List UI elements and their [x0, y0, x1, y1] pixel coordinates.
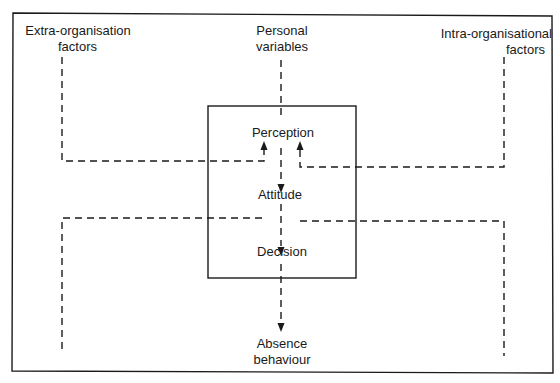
lower-left-line [62, 218, 262, 353]
decision-label: Decision [244, 244, 320, 260]
attitude-label: Attitude [244, 187, 316, 203]
intra-org-to-perception-line [300, 57, 504, 167]
intra-org-line1: Intra-organisational [424, 26, 552, 42]
extra-org-line2: factors [52, 39, 140, 55]
extra-organisation-factors-label: Extra-organisation factors [16, 23, 140, 55]
absence-line1: Absence [240, 336, 324, 352]
lower-right-line [300, 221, 504, 356]
perception-label: Perception [240, 125, 326, 141]
extra-org-line1: Extra-organisation [16, 23, 140, 39]
arrow-up-icon [261, 141, 268, 150]
extra-org-to-perception-line [62, 57, 264, 161]
arrow-down-icon [278, 323, 285, 332]
absence-behaviour-label: Absence behaviour [240, 336, 324, 368]
intra-organisational-factors-label: Intra-organisational factors [424, 26, 552, 58]
absence-line2: behaviour [240, 352, 324, 368]
arrow-up-icon [297, 141, 304, 150]
personal-line2: variables [244, 39, 320, 55]
personal-line1: Personal [244, 23, 320, 39]
intra-org-line2: factors [424, 42, 545, 58]
personal-variables-label: Personal variables [244, 23, 320, 55]
